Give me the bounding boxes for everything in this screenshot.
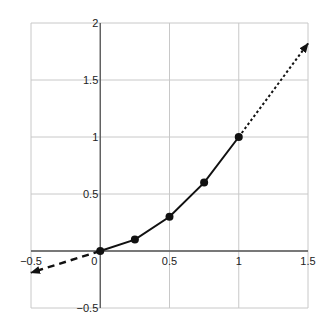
data-point-marker — [166, 213, 174, 221]
dotted-arrow — [239, 44, 308, 137]
y-tick-label: 1 — [92, 131, 98, 143]
data-point-marker — [235, 133, 243, 141]
tick-labels: −0.500.511.5−0.50.511.52 — [20, 17, 316, 314]
y-tick-label: 2 — [92, 17, 98, 29]
x-tick-label: 0.5 — [162, 255, 177, 267]
x-tick-label: 1.5 — [300, 255, 315, 267]
data-point-marker — [131, 236, 139, 244]
x-tick-label: −0.5 — [20, 255, 42, 267]
y-tick-label: 0.5 — [83, 188, 98, 200]
y-tick-label: −0.5 — [77, 302, 99, 314]
x-tick-label: 1 — [236, 255, 242, 267]
y-tick-label: 1.5 — [83, 74, 98, 86]
data-point-marker — [96, 247, 104, 255]
data-point-marker — [200, 179, 208, 187]
x-tick-label: 0 — [91, 255, 97, 267]
line-chart: −0.500.511.5−0.50.511.52 — [0, 0, 331, 327]
